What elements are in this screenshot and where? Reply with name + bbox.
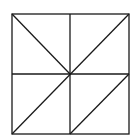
square-triangle-diagram (0, 0, 137, 136)
dividing-lines (12, 14, 129, 134)
diagonal-top-left-to-center (12, 14, 70, 74)
diagonal-bottom-right-quadrant (70, 74, 129, 134)
